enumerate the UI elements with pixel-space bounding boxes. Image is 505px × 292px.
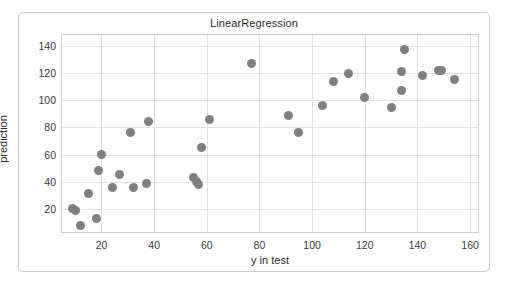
scatter-point [84,189,93,198]
chart-title: LinearRegression [19,17,489,29]
x-axis-label: y in test [61,254,479,266]
y-tick-label: 80 [44,121,56,133]
gridline-vertical [259,35,260,232]
gridline-horizontal [62,46,478,47]
y-tick-label: 40 [44,176,56,188]
gridline-horizontal [62,73,478,74]
gridline-vertical [365,35,366,232]
x-tick-label: 60 [201,239,213,251]
scatter-point [329,77,338,86]
x-tick-label: 40 [148,239,160,251]
scatter-point [205,115,214,124]
scatter-point [71,206,80,215]
gridline-vertical [207,35,208,232]
scatter-point [115,170,124,179]
gridline-vertical [470,35,471,232]
x-tick-label: 100 [303,239,321,251]
x-tick-label: 160 [461,239,479,251]
gridline-horizontal [62,100,478,101]
gridline-vertical [154,35,155,232]
gridline-horizontal [62,182,478,183]
scatter-point [437,66,446,75]
scatter-point [144,117,153,126]
gridline-horizontal [62,209,478,210]
scatter-point [397,86,406,95]
gridline-vertical [312,35,313,232]
scatter-point [294,128,303,137]
scatter-point [397,67,406,76]
x-tick-label: 140 [409,239,427,251]
x-tick-label: 20 [96,239,108,251]
y-tick-label: 100 [38,94,56,106]
scatter-point [387,103,396,112]
scatter-point [197,143,206,152]
plot-area: 20406080100120140 20406080100120140160 [61,34,479,233]
y-tick-label: 120 [38,67,56,79]
gridline-horizontal [62,155,478,156]
scatter-point [194,180,203,189]
scatter-point [318,101,327,110]
scatter-point [129,183,138,192]
y-tick-label: 60 [44,149,56,161]
scatter-point [97,150,106,159]
scatter-point [76,221,85,230]
scatter-point [400,45,409,54]
gridline-vertical [101,35,102,232]
gridline-vertical [417,35,418,232]
scatter-point [142,179,151,188]
y-axis-label: prediction [0,115,9,163]
scatter-point [126,128,135,137]
x-tick-label: 120 [356,239,374,251]
figure-frame: LinearRegression prediction y in test 20… [18,12,490,272]
scatter-point [418,71,427,80]
y-tick-label: 20 [44,203,56,215]
scatter-point [247,59,256,68]
y-tick-label: 140 [38,40,56,52]
gridline-horizontal [62,127,478,128]
x-tick-label: 80 [254,239,266,251]
scatter-point [344,69,353,78]
scatter-point [284,111,293,120]
scatter-point [108,183,117,192]
scatter-point [92,214,101,223]
scatter-point [450,75,459,84]
